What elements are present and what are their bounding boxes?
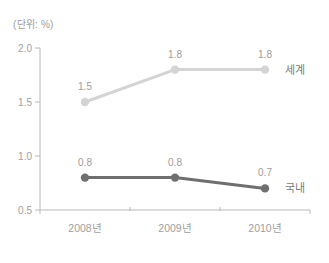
chart-canvas: 0.51.01.52.02008년2009년2010년1.51.81.8세계0.… <box>0 0 329 263</box>
data-point-marker <box>81 173 89 181</box>
y-tick-label: 0.5 <box>18 205 32 216</box>
line-chart-figure: (단위: %) 0.51.01.52.02008년2009년2010년1.51.… <box>0 0 329 263</box>
data-point-label: 1.8 <box>168 49 182 60</box>
data-point-marker <box>81 98 89 106</box>
data-point-label: 1.8 <box>258 49 272 60</box>
data-point-marker <box>261 65 269 73</box>
y-tick-label: 1.5 <box>18 97 32 108</box>
series-label-1: 국내 <box>285 182 305 194</box>
data-point-marker <box>171 173 179 181</box>
x-tick-label: 2009년 <box>158 222 191 234</box>
y-tick-label: 2.0 <box>18 43 32 54</box>
x-tick-label: 2010년 <box>248 222 281 234</box>
data-point-marker <box>171 65 179 73</box>
data-point-label: 1.5 <box>78 81 92 92</box>
data-point-label: 0.8 <box>168 157 182 168</box>
data-point-marker <box>261 184 269 192</box>
data-point-label: 0.8 <box>78 157 92 168</box>
data-point-label: 0.7 <box>258 167 272 178</box>
x-tick-label: 2008년 <box>68 222 101 234</box>
series-label-0: 세계 <box>285 64 305 76</box>
y-tick-label: 1.0 <box>18 151 32 162</box>
series-line-0 <box>85 70 265 102</box>
